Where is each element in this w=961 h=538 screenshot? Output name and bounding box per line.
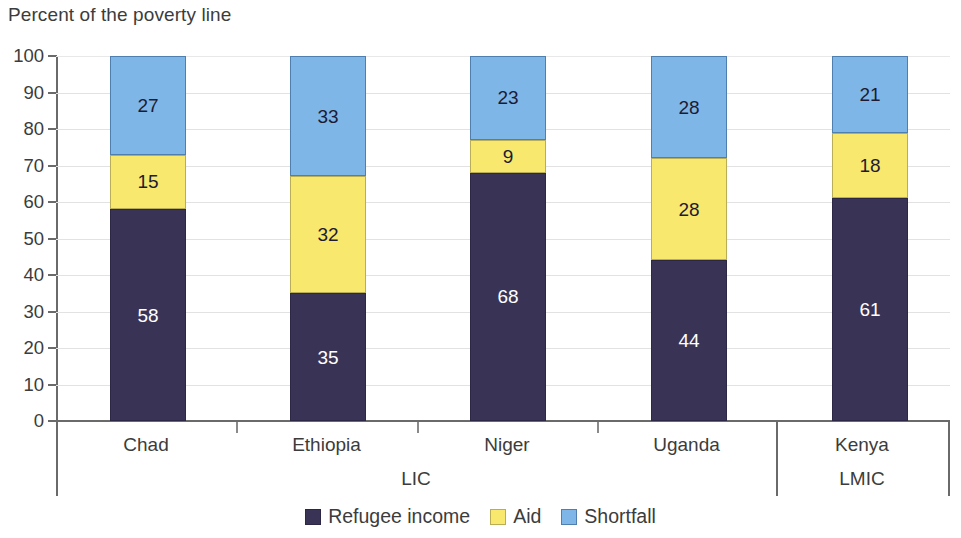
legend-swatch-income (305, 509, 321, 525)
category-label-kenya: Kenya (776, 434, 948, 456)
bar-value-label: 28 (678, 98, 699, 117)
bar-value-label: 23 (497, 88, 518, 107)
bar-value-label: 61 (859, 300, 880, 319)
chart-title: Percent of the poverty line (8, 4, 231, 26)
bar-ethiopia[interactable]: 353233 (290, 56, 366, 421)
y-axis-tick-label: 20 (0, 339, 44, 358)
bar-segment-income[interactable]: 58 (110, 209, 186, 421)
legend-item-aid[interactable]: Aid (490, 505, 541, 528)
legend-label: Aid (513, 505, 541, 528)
group-label-lic: LIC (56, 468, 776, 490)
bar-segment-short[interactable]: 27 (110, 56, 186, 155)
bar-segment-aid[interactable]: 9 (470, 140, 546, 173)
bar-value-label: 44 (678, 331, 699, 350)
legend-item-shortfall[interactable]: Shortfall (561, 505, 656, 528)
y-axis-tick-label: 0 (0, 412, 44, 431)
legend-label: Shortfall (584, 505, 656, 528)
legend-swatch-short (561, 509, 577, 525)
bar-segment-income[interactable]: 68 (470, 173, 546, 421)
legend-item-refugee-income[interactable]: Refugee income (305, 505, 470, 528)
bar-value-label: 9 (503, 147, 514, 166)
category-label-ethiopia: Ethiopia (236, 434, 417, 456)
group-label-lmic: LMIC (776, 468, 948, 490)
bar-value-label: 33 (317, 107, 338, 126)
category-separator-tick (236, 422, 238, 433)
bar-segment-short[interactable]: 21 (832, 56, 908, 133)
y-axis-tick-label: 100 (0, 47, 44, 66)
chart-figure: Percent of the poverty line 010203040506… (0, 0, 961, 538)
y-axis-tick-label: 80 (0, 120, 44, 139)
bar-value-label: 27 (137, 96, 158, 115)
chart-legend: Refugee incomeAidShortfall (0, 505, 961, 528)
bar-segment-aid[interactable]: 15 (110, 155, 186, 210)
y-axis-tick-label: 90 (0, 84, 44, 103)
category-separator-tick (417, 422, 419, 433)
group-divider (776, 422, 778, 496)
bar-segment-income[interactable]: 35 (290, 293, 366, 421)
bar-uganda[interactable]: 442828 (651, 56, 727, 421)
bar-segment-aid[interactable]: 28 (651, 158, 727, 260)
y-axis-tick-label: 30 (0, 303, 44, 322)
y-axis-tick-label: 50 (0, 230, 44, 249)
bar-segment-short[interactable]: 23 (470, 56, 546, 140)
category-label-niger: Niger (417, 434, 597, 456)
bar-value-label: 68 (497, 287, 518, 306)
bar-value-label: 15 (137, 172, 158, 191)
bar-value-label: 35 (317, 348, 338, 367)
category-label-chad: Chad (56, 434, 236, 456)
bar-segment-income[interactable]: 61 (832, 198, 908, 421)
category-label-uganda: Uganda (597, 434, 776, 456)
bar-value-label: 21 (859, 85, 880, 104)
bar-chad[interactable]: 581527 (110, 56, 186, 421)
category-separator-tick (597, 422, 599, 433)
y-axis-tick-label: 60 (0, 193, 44, 212)
y-axis-tick-label: 40 (0, 266, 44, 285)
bar-value-label: 58 (137, 306, 158, 325)
bar-kenya[interactable]: 611821 (832, 56, 908, 421)
legend-swatch-aid (490, 509, 506, 525)
legend-label: Refugee income (328, 505, 470, 528)
bar-segment-short[interactable]: 28 (651, 56, 727, 158)
plot-area: 58152735323368923442828611821 (56, 56, 950, 421)
category-band-right-edge (948, 422, 950, 496)
y-axis-tick-label: 10 (0, 376, 44, 395)
bar-segment-aid[interactable]: 18 (832, 133, 908, 199)
bar-segment-aid[interactable]: 32 (290, 176, 366, 293)
bar-value-label: 18 (859, 156, 880, 175)
bar-value-label: 32 (317, 225, 338, 244)
bar-niger[interactable]: 68923 (470, 56, 546, 421)
bar-segment-short[interactable]: 33 (290, 56, 366, 176)
bar-value-label: 28 (678, 200, 699, 219)
bar-segment-income[interactable]: 44 (651, 260, 727, 421)
y-axis-tick-label: 70 (0, 157, 44, 176)
